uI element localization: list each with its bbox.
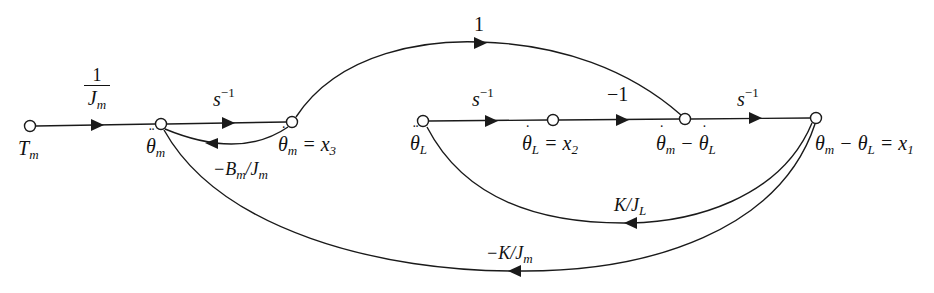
- gain-neg-one: −1: [607, 84, 628, 104]
- arrow-icon: [616, 114, 629, 126]
- node-thetam-ddot: [156, 119, 167, 130]
- node-label-tm: Tm: [18, 138, 39, 161]
- node-diff-dot: [680, 114, 691, 125]
- node-tm: [25, 121, 36, 132]
- gain-s-inv-diff: s−1: [737, 86, 759, 109]
- gain-s-inv-load: s−1: [472, 86, 494, 109]
- node-label-thetam-ddot: ¨θm: [146, 136, 165, 159]
- arrow-icon: [485, 115, 498, 127]
- arrow-icon: [749, 112, 762, 124]
- gain-neg-bm-over-jm: −Bm/Jm: [213, 160, 268, 181]
- node-label-thetal-dot: ˙θL = x2: [522, 133, 578, 156]
- arrow-icon: [474, 37, 487, 49]
- node-label-thetam-dot: ˙θm = x3: [278, 134, 336, 157]
- arrow-icon: [508, 265, 521, 277]
- arrow-icon: [222, 117, 235, 129]
- gain-k-over-jl: K/JL: [614, 196, 646, 217]
- node-thetam-dot: [287, 117, 298, 128]
- signal-flow-graph: [0, 0, 934, 293]
- branch-bm-feedback: [165, 127, 288, 144]
- node-thetal-ddot: [418, 116, 429, 127]
- node-label-diff-dot: ˙θm − ˙θL: [656, 133, 716, 156]
- node-label-thetal-ddot: ¨θL: [410, 133, 427, 156]
- gain-s-inv-motor: s−1: [213, 86, 235, 109]
- gain-unity: 1: [474, 14, 484, 34]
- node-x1: [811, 113, 822, 124]
- gain-neg-k-over-jm: −K/Jm: [486, 244, 533, 265]
- gain-1-over-jm: 1 Jm: [84, 66, 110, 115]
- arrow-icon: [91, 119, 104, 131]
- arrow-icon: [205, 138, 218, 149]
- node-label-x1: θm − θL = x1: [815, 133, 914, 156]
- arrow-icon: [624, 217, 637, 229]
- node-thetal-dot: [548, 115, 559, 126]
